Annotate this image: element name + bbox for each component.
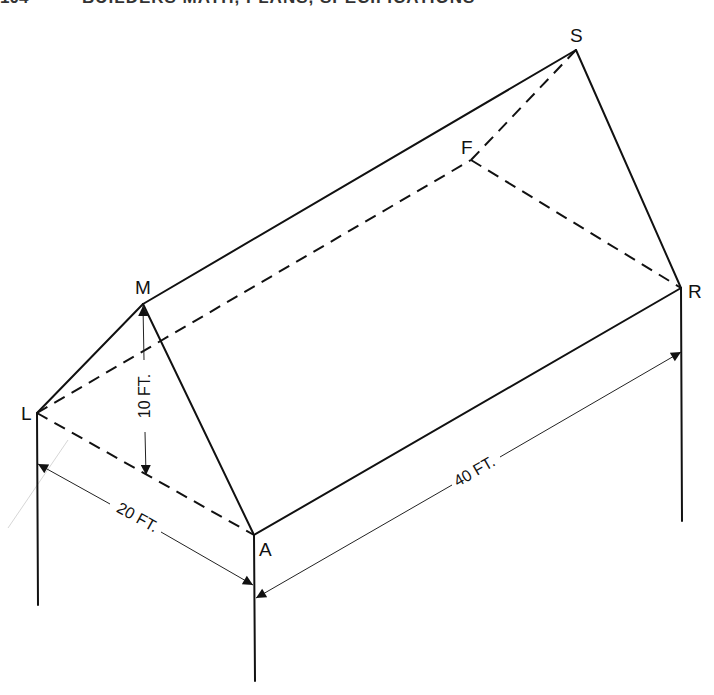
edge-m-s — [143, 50, 576, 304]
edge-m-a — [143, 304, 254, 535]
roof-diagram: 10 FT. 20 FT. 40 FT. L M A S F R — [0, 0, 714, 695]
dim-40ft-arrow-right — [500, 352, 681, 457]
wall-line-l — [37, 413, 38, 605]
edge-l-m — [37, 304, 143, 413]
point-label-s: S — [570, 25, 583, 46]
wall-line-a — [254, 535, 255, 681]
dim-10ft-label: 10 FT. — [136, 374, 153, 418]
point-label-f: F — [461, 137, 473, 158]
point-label-l: L — [21, 403, 32, 424]
point-label-m: M — [135, 277, 151, 298]
wall-line-r — [681, 288, 682, 521]
edge-f-s-hidden — [471, 50, 576, 160]
dim-40ft-label: 40 FT. — [451, 453, 498, 490]
point-label-a: A — [259, 539, 272, 560]
edge-f-r-hidden — [471, 160, 681, 288]
dim-20ft-label: 20 FT. — [114, 499, 161, 535]
dim-40ft-arrow-left — [256, 485, 452, 598]
edge-s-r — [576, 50, 681, 288]
point-label-r: R — [688, 281, 702, 302]
edge-l-f-hidden — [37, 160, 471, 413]
edge-a-r — [254, 288, 681, 535]
dim-10ft-arrow-down — [145, 432, 146, 475]
dim-20ft-arrow-left — [38, 464, 110, 504]
dim-20ft-arrow-right — [161, 532, 253, 585]
